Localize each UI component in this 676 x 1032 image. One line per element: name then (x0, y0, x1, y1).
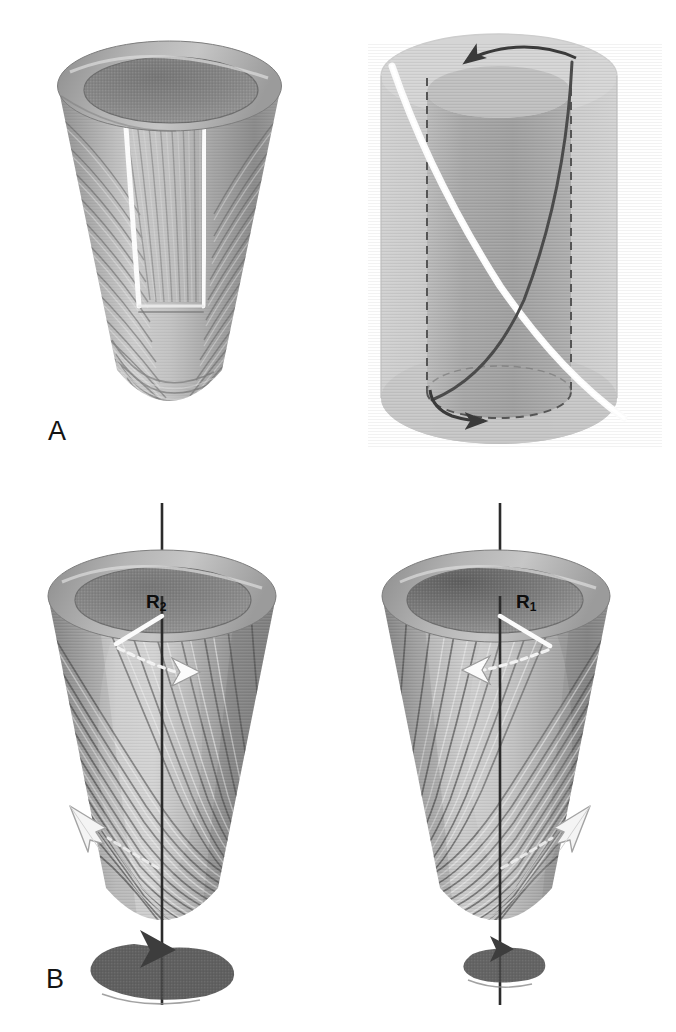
cylinder-helix-dark (432, 62, 572, 400)
cone-a-cutout-patch (124, 100, 205, 312)
cone-b-right-fibers (370, 590, 640, 970)
cone-a-rim-outer (58, 41, 282, 131)
cone-b-left-body (48, 596, 276, 920)
radius-line-r2 (116, 616, 162, 644)
cylinder-helix-white (392, 66, 624, 418)
radius-line-r1 (500, 616, 550, 646)
panel-label-a: A (48, 418, 66, 445)
cylinder-front-face (427, 92, 571, 418)
cylinder-dashed-generators (427, 74, 571, 392)
cylinder-top-arrow (466, 47, 576, 62)
fiber-direction-arrow-left (70, 806, 158, 868)
cone-a-rim-inner (84, 57, 258, 123)
cylinder-bottom-arrow (430, 390, 484, 421)
radius-label-r2: R2 (146, 592, 166, 611)
cylinder-bottom-dashed-edge (427, 392, 571, 418)
circumferential-arrow-r2 (118, 648, 200, 686)
radius-label-r2-sub: 2 (160, 600, 167, 614)
cone-b-right-rim-inner (407, 567, 583, 633)
radius-label-r1-sub: 1 (530, 600, 537, 614)
figure-root: A B R2 R1 (0, 0, 676, 1032)
radius-label-r2-base: R (146, 591, 160, 612)
radius-label-r1-base: R (516, 591, 530, 612)
panel-b-right-cone-group (370, 503, 640, 1005)
panel-label-b: B (46, 966, 64, 993)
panel-a-cone-group (40, 41, 300, 450)
cone-b-right-body (382, 596, 610, 920)
cone-b-right-rim-outer (382, 550, 610, 642)
fiber-direction-arrow-right (502, 806, 590, 868)
panel-a-cylinder-group (368, 34, 664, 452)
rotation-arrow-large (90, 930, 234, 1004)
cone-a-fiber-striations (40, 80, 300, 450)
radius-label-r1: R1 (516, 592, 536, 611)
figure-canvas (0, 0, 676, 1032)
panel-b-left-cone-group (30, 503, 300, 1005)
cylinder-outer-shell (381, 34, 617, 444)
rotation-arrow-small (463, 936, 545, 987)
cone-a-body (58, 86, 281, 401)
cone-b-left-fibers (30, 590, 300, 970)
circumferential-arrow-r1 (462, 650, 548, 684)
